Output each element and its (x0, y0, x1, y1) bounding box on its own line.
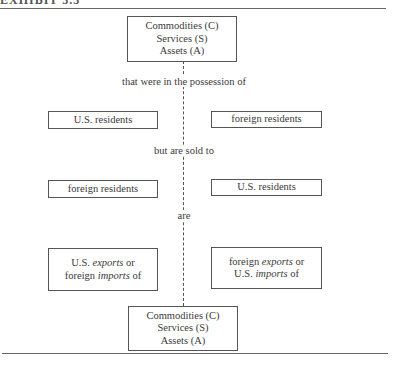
box-row2-right-label: U.S. residents (237, 181, 296, 194)
box-row1-left: U.S. residents (48, 111, 158, 129)
box-row3-right: foreign exports or U.S. imports of (211, 247, 322, 289)
box-row3-right-line1: foreign exports or (229, 256, 304, 269)
box-row2-left-label: foreign residents (68, 183, 138, 196)
text-italic: imports (255, 268, 287, 279)
text-plain: or (123, 257, 134, 268)
box-row3-right-line2: U.S. imports of (234, 268, 299, 281)
cropped-exhibit-heading: EXHIBIT 3.3 (0, 0, 80, 8)
bottom-rule (2, 353, 388, 354)
top-box-line-assets: Assets (A) (160, 45, 205, 58)
connector-possession: that were in the possession of (120, 76, 248, 87)
connector-are: are (176, 210, 193, 221)
box-row2-left: foreign residents (48, 180, 158, 198)
bottom-box-goods: Commodities (C) Services (S) Assets (A) (128, 306, 238, 351)
box-row3-left-line1: U.S. exports or (71, 257, 135, 270)
top-rule (0, 8, 386, 9)
bottom-box-line-assets: Assets (A) (161, 335, 206, 348)
text-italic: exports (262, 256, 293, 267)
dashed-center-line (183, 61, 184, 306)
text-plain: U.S. (71, 257, 92, 268)
top-box-goods: Commodities (C) Services (S) Assets (A) (127, 16, 237, 62)
text-plain: of (130, 270, 141, 281)
box-row1-right-label: foreign residents (231, 113, 301, 126)
bottom-box-line-services: Services (S) (157, 322, 208, 335)
text-italic: exports (93, 257, 124, 268)
text-plain: foreign (229, 256, 262, 267)
box-row3-left-line2: foreign imports of (65, 270, 141, 283)
text-plain: of (288, 268, 299, 279)
top-box-line-commodities: Commodities (C) (145, 20, 218, 33)
text-italic: imports (98, 270, 130, 281)
text-plain: U.S. (234, 268, 255, 279)
text-plain: or (293, 256, 304, 267)
top-box-line-services: Services (S) (156, 33, 207, 46)
box-row1-right: foreign residents (211, 111, 322, 128)
box-row1-left-label: U.S. residents (74, 114, 133, 127)
box-row3-left: U.S. exports or foreign imports of (48, 248, 158, 291)
bottom-box-line-commodities: Commodities (C) (146, 310, 219, 323)
text-plain: foreign (65, 270, 98, 281)
connector-sold-to: but are sold to (152, 145, 216, 156)
box-row2-right: U.S. residents (211, 179, 322, 196)
